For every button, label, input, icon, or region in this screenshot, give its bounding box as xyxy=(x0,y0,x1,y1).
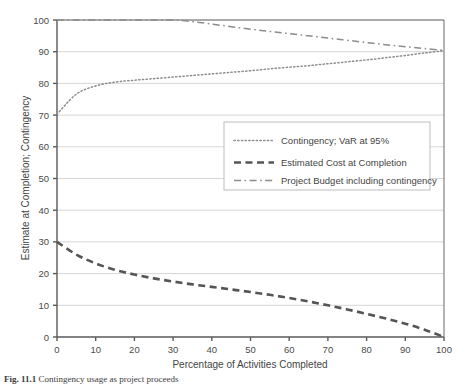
y-tick-label: 30 xyxy=(38,236,49,247)
legend-label-3: Project Budget including contingency xyxy=(281,175,437,186)
legend-label-1: Contingency; VaR at 95% xyxy=(281,135,390,146)
y-tick-label: 100 xyxy=(33,15,49,26)
figure-caption-text: Contingency usage as project proceeds xyxy=(39,374,179,384)
x-tick-label: 50 xyxy=(245,344,256,355)
y-tick-label: 90 xyxy=(38,46,49,57)
x-tick-label: 100 xyxy=(436,344,452,355)
y-axis-ticks: 0102030405060708090100 xyxy=(33,15,57,343)
x-tick-label: 10 xyxy=(90,344,101,355)
x-tick-label: 70 xyxy=(323,344,334,355)
figure-caption-label: Fig. 11.1 xyxy=(4,374,36,384)
legend-label-2: Estimated Cost at Completion xyxy=(281,157,407,168)
y-tick-label: 60 xyxy=(38,141,49,152)
x-tick-label: 90 xyxy=(400,344,411,355)
y-tick-label: 40 xyxy=(38,205,49,216)
chart-legend: Contingency; VaR at 95%Estimated Cost at… xyxy=(224,122,437,190)
y-tick-label: 20 xyxy=(38,268,49,279)
x-tick-label: 20 xyxy=(129,344,140,355)
y-tick-label: 70 xyxy=(38,110,49,121)
x-tick-label: 30 xyxy=(168,344,179,355)
x-axis-ticks: 0102030405060708090100 xyxy=(54,337,452,355)
chart-canvas: 0102030405060708090100 01020304050607080… xyxy=(0,0,466,388)
y-tick-label: 80 xyxy=(38,78,49,89)
y-tick-label: 10 xyxy=(38,300,49,311)
x-tick-label: 80 xyxy=(361,344,372,355)
figure-caption: Fig. 11.1 Contingency usage as project p… xyxy=(4,374,178,384)
y-tick-label: 0 xyxy=(44,332,49,343)
x-tick-label: 60 xyxy=(284,344,295,355)
y-axis-title: Estimate at Completion; Contingency xyxy=(20,96,31,261)
figure-container: 0102030405060708090100 01020304050607080… xyxy=(0,0,466,388)
y-tick-label: 50 xyxy=(38,173,49,184)
x-axis-title: Percentage of Activities Completed xyxy=(172,359,327,370)
x-tick-label: 0 xyxy=(54,344,59,355)
x-tick-label: 40 xyxy=(207,344,218,355)
